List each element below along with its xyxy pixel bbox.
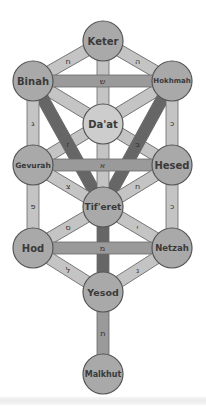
sephirah-hod: Hod: [13, 228, 53, 268]
sephirah-label: Gevurah: [15, 161, 51, 170]
sephirah-label: Keter: [88, 36, 119, 47]
path-letter: ח: [65, 57, 70, 66]
path-letter: י: [137, 223, 139, 232]
path-letter: א: [100, 161, 105, 170]
path-letter: ש: [100, 77, 106, 86]
path-letter: ה: [135, 57, 140, 66]
path-letter: ל: [66, 266, 71, 275]
tree-of-life-diagram: קיזבדחהשגכאצחפכסיןמלנת KeterBinahHokhmah…: [0, 0, 206, 411]
sephirah-label: Tif'eret: [85, 202, 123, 212]
sephirah-label: Yesod: [86, 287, 118, 298]
path-letter: כ: [170, 202, 174, 211]
sephirah-label: Netzah: [155, 243, 189, 253]
sephirah-daat: Da'at: [83, 104, 123, 144]
bottom-strip: [0, 397, 206, 405]
path-letter: מ: [100, 244, 105, 253]
path-letter: צ: [66, 182, 71, 191]
sephirah-hokhmah: Hokhmah: [152, 61, 192, 101]
sephirah-netzah: Netzah: [152, 228, 192, 268]
sephirah-label: Hod: [22, 243, 44, 254]
sephirah-label: Da'at: [88, 119, 118, 130]
path-letter: נ: [136, 266, 139, 275]
sephirah-hesed: Hesed: [152, 145, 192, 185]
sephirah-yesod: Yesod: [83, 272, 123, 312]
sephirah-label: Binah: [17, 76, 49, 87]
path-letter: ס: [65, 223, 70, 232]
sephirah-label: Hokhmah: [153, 77, 190, 85]
path-letter: ת: [100, 329, 105, 338]
path-letter: כ: [170, 119, 174, 128]
path-letter: פ: [31, 202, 36, 211]
sephirah-keter: Keter: [83, 21, 123, 61]
sephirah-malkhut: Malkhut: [83, 354, 123, 394]
path-letter: ב: [135, 140, 140, 149]
sephirah-tiferet: Tif'eret: [83, 187, 123, 227]
path-letter: ז: [67, 140, 70, 149]
sephirah-gevurah: Gevurah: [13, 145, 53, 185]
sephirah-label: Malkhut: [85, 370, 122, 379]
sephirah-binah: Binah: [13, 61, 53, 101]
sephirah-label: Hesed: [154, 160, 189, 171]
path-letter: ח: [135, 182, 140, 191]
